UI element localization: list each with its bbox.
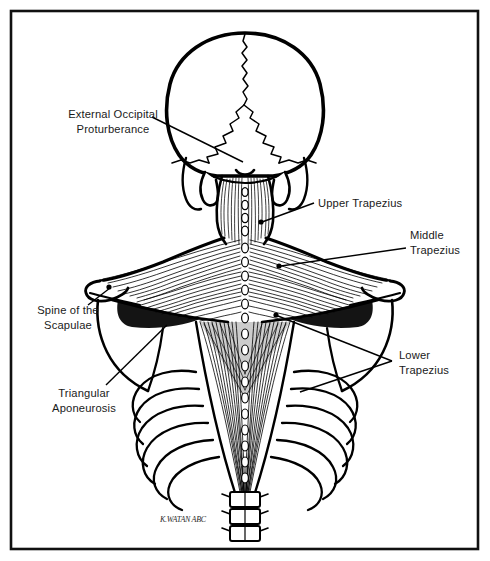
label-middle-trapezius-line2: Trapezius xyxy=(410,244,460,256)
spinous-process xyxy=(242,441,249,451)
spinous-process xyxy=(242,257,249,267)
marker-lower-trapezius xyxy=(273,312,278,317)
label-spine-of-the-scapulae-line1: Spine of the xyxy=(37,304,99,316)
spinous-process xyxy=(242,377,249,387)
label-external-occipital-protuberance-line2: Proturberance xyxy=(77,123,150,135)
label-lower-trapezius-line1: Lower xyxy=(399,349,430,361)
spinous-process xyxy=(242,299,249,309)
anatomy-figure: External Occipital Proturberance Upper T… xyxy=(0,0,490,561)
marker-spine-of-the-scapulae xyxy=(106,284,111,289)
spinous-process xyxy=(242,313,249,323)
label-external-occipital-protuberance-line1: External Occipital xyxy=(68,108,158,120)
label-upper-trapezius: Upper Trapezius xyxy=(318,197,403,209)
spinous-process xyxy=(242,425,249,435)
skull-group xyxy=(167,33,324,183)
spinous-process xyxy=(242,329,249,339)
label-triangular-aponeurosis-line1: Triangular xyxy=(58,387,110,399)
spinous-process xyxy=(242,393,249,403)
spinous-process xyxy=(242,457,249,467)
spinous-process xyxy=(242,361,249,371)
label-triangular-aponeurosis-line2: Aponeurosis xyxy=(52,402,116,414)
spinous-process xyxy=(242,243,249,253)
anatomy-illustration-canvas: External Occipital Proturberance Upper T… xyxy=(0,0,490,561)
label-spine-of-the-scapulae-line2: Scapulae xyxy=(44,319,92,331)
spinous-process xyxy=(242,345,249,355)
marker-upper-trapezius xyxy=(258,219,263,224)
marker-middle-trapezius xyxy=(276,263,281,268)
spinous-process xyxy=(242,285,249,295)
spinous-process xyxy=(242,271,249,281)
label-middle-trapezius-line1: Middle xyxy=(410,229,444,241)
thoracic-spine-group xyxy=(242,243,249,483)
spinous-process xyxy=(242,409,249,419)
artist-signature: K.WATAN ABC xyxy=(159,515,207,524)
label-lower-trapezius-line2: Trapezius xyxy=(399,364,449,376)
spinous-process xyxy=(242,473,249,483)
